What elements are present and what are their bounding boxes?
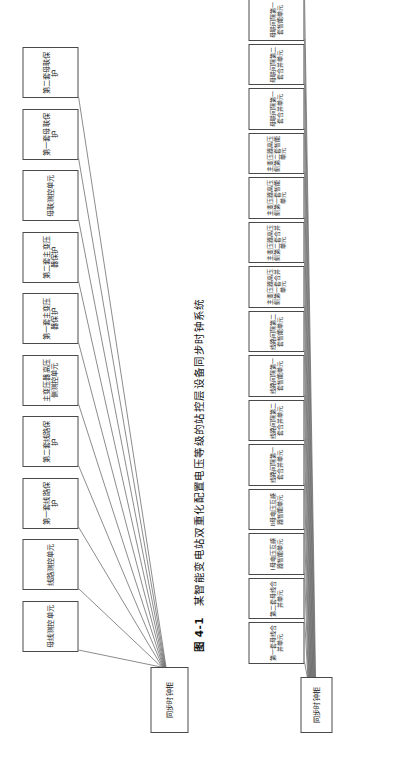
node-label: 主变压器高压侧测控单元 (42, 357, 58, 404)
clock-cabinet-root-bottom[interactable]: 同步时钟柜 (300, 677, 332, 733)
bay-device-node[interactable]: 线路间隔第二套合并单元 (248, 400, 304, 442)
station-device-node[interactable]: 第二套线路保护 (22, 417, 78, 468)
bay-device-node[interactable]: 主变压器高压侧第一套智能单元 (248, 178, 304, 220)
node-label: 线路间隔第一套智能单元 (269, 358, 282, 396)
station-device-node[interactable]: 第一套线路保护 (22, 478, 78, 529)
node-label: 第一套母联保护 (42, 111, 58, 158)
bay-device-node[interactable]: 主变压器高压侧第一套合并单元 (248, 267, 304, 309)
node-label: I母电压互感器智能单元 (269, 536, 282, 574)
figure-caption: 图 4-1 某智能变电站双重化配置电压等级的站控层设备同步时钟系统 (190, 298, 205, 652)
node-label: 同步时钟柜 (165, 669, 173, 731)
node-label: 第一套母线合并单元 (269, 625, 282, 663)
bay-device-node[interactable]: 主变压器高压侧第二套智能单元 (248, 133, 304, 175)
station-device-node[interactable]: 第一套母联保护 (22, 109, 78, 160)
node-label: 同步时钟柜 (312, 679, 320, 731)
node-label: 主变压器高压侧第二套智能单元 (266, 135, 286, 173)
node-label: 线路测控单元 (46, 542, 54, 589)
node-label: 第二套母线合并单元 (269, 580, 282, 618)
node-label: 第一套主变压器保护 (42, 296, 58, 343)
bay-device-node[interactable]: 线路间隔第一套智能单元 (248, 356, 304, 398)
station-device-node[interactable]: 第二套主变压器保护 (22, 232, 78, 283)
station-device-node[interactable]: 母线测控单元 (22, 601, 78, 652)
node-label: 线路间隔第二套合并单元 (269, 402, 282, 440)
node-label: 线路间隔第一套合并单元 (269, 447, 282, 485)
node-label: 母联间隔第一套智能单元 (269, 2, 282, 40)
node-label: 主变压器高压侧第一套智能单元 (266, 180, 286, 218)
node-label: 第二套主变压器保护 (42, 234, 58, 281)
bay-device-node[interactable]: II母电压互感器智能单元 (248, 489, 304, 531)
node-label: 主变压器高压侧第二套合并单元 (266, 224, 286, 262)
node-label: 母联间隔第一套合并单元 (269, 91, 282, 129)
node-label: 母联间隔第二套合并单元 (269, 46, 282, 84)
node-label: 母联测控单元 (46, 173, 54, 220)
bay-device-node[interactable]: 第一套母线合并单元 (248, 623, 304, 665)
station-device-node[interactable]: 第二套母联保护 (22, 48, 78, 99)
node-label: 线路间隔第二套智能单元 (269, 313, 282, 351)
node-label: 第二套母联保护 (42, 50, 58, 97)
bay-device-node[interactable]: 线路间隔第二套智能单元 (248, 311, 304, 353)
station-device-node[interactable]: 主变压器高压侧测控单元 (22, 355, 78, 406)
station-device-node[interactable]: 线路测控单元 (22, 540, 78, 591)
bay-device-node[interactable]: 线路间隔第一套合并单元 (248, 445, 304, 487)
station-device-node[interactable]: 第一套主变压器保护 (22, 294, 78, 345)
bay-device-node[interactable]: 母联间隔第一套智能单元 (248, 0, 304, 41)
node-label: 第二套线路保护 (42, 419, 58, 466)
bay-device-node[interactable]: 母联间隔第一套合并单元 (248, 89, 304, 131)
node-label: II母电压互感器智能单元 (269, 491, 282, 529)
station-device-node[interactable]: 母联测控单元 (22, 171, 78, 222)
bay-device-node[interactable]: 第二套母线合并单元 (248, 578, 304, 620)
node-label: 母线测控单元 (46, 603, 54, 650)
scanned-page: 同步时钟柜 母线测控单元线路测控单元第一套线路保护第二套线路保护主变压器高压侧测… (0, 0, 405, 780)
bay-device-node[interactable]: 主变压器高压侧第二套合并单元 (248, 222, 304, 264)
node-label: 第一套线路保护 (42, 480, 58, 527)
figure-caption-text: 某智能变电站双重化配置电压等级的站控层设备同步时钟系统 (192, 298, 204, 606)
figure-caption-number: 图 4-1 (192, 617, 204, 652)
bay-device-node[interactable]: 母联间隔第二套合并单元 (248, 44, 304, 86)
clock-cabinet-root-top[interactable]: 同步时钟柜 (150, 667, 188, 733)
node-label: 主变压器高压侧第一套合并单元 (266, 269, 286, 307)
bay-device-node[interactable]: I母电压互感器智能单元 (248, 534, 304, 576)
